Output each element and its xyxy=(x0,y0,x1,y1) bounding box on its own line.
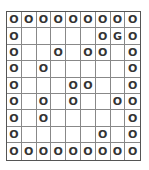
wall-cell: O xyxy=(125,61,140,77)
wall-cell: O xyxy=(125,127,140,143)
wall-cell: O xyxy=(125,110,140,126)
empty-cell xyxy=(37,127,52,143)
wall-cell: O xyxy=(96,143,111,159)
empty-cell xyxy=(66,45,81,61)
empty-cell xyxy=(51,61,66,77)
wall-cell: O xyxy=(81,12,96,28)
empty-cell xyxy=(37,78,52,94)
wall-cell: O xyxy=(7,12,22,28)
wall-cell: O xyxy=(96,45,111,61)
wall-cell: O xyxy=(7,143,22,159)
wall-cell: O xyxy=(37,143,52,159)
wall-cell: O xyxy=(7,45,22,61)
wall-cell: O xyxy=(96,12,111,28)
wall-cell: O xyxy=(51,45,66,61)
wall-cell: O xyxy=(22,12,37,28)
empty-cell xyxy=(37,28,52,44)
empty-cell xyxy=(96,110,111,126)
empty-cell xyxy=(81,127,96,143)
wall-cell: O xyxy=(125,78,140,94)
wall-cell: O xyxy=(66,143,81,159)
empty-cell xyxy=(22,110,37,126)
empty-cell xyxy=(51,28,66,44)
empty-cell xyxy=(22,28,37,44)
wall-cell: O xyxy=(66,94,81,110)
wall-cell: O xyxy=(37,110,52,126)
wall-cell: O xyxy=(37,61,52,77)
wall-cell: O xyxy=(66,78,81,94)
wall-cell: O xyxy=(7,28,22,44)
wall-cell: O xyxy=(37,94,52,110)
empty-cell xyxy=(51,94,66,110)
wall-cell: O xyxy=(81,78,96,94)
empty-cell xyxy=(51,110,66,126)
wall-cell: O xyxy=(111,143,126,159)
wall-cell: O xyxy=(125,143,140,159)
wall-cell: O xyxy=(111,12,126,28)
empty-cell xyxy=(81,28,96,44)
empty-cell xyxy=(111,45,126,61)
empty-cell xyxy=(111,110,126,126)
wall-cell: O xyxy=(22,143,37,159)
empty-cell xyxy=(96,61,111,77)
empty-cell xyxy=(22,45,37,61)
empty-cell xyxy=(111,127,126,143)
wall-cell: O xyxy=(66,12,81,28)
empty-cell xyxy=(66,61,81,77)
empty-cell xyxy=(81,94,96,110)
wall-cell: O xyxy=(125,94,140,110)
wall-cell: O xyxy=(51,12,66,28)
wall-cell: O xyxy=(125,28,140,44)
wall-cell: O xyxy=(111,94,126,110)
empty-cell xyxy=(37,45,52,61)
empty-cell xyxy=(22,94,37,110)
wall-cell: O xyxy=(7,110,22,126)
empty-cell xyxy=(96,94,111,110)
empty-cell xyxy=(66,28,81,44)
wall-cell: O xyxy=(81,45,96,61)
wall-cell: O xyxy=(7,78,22,94)
wall-cell: O xyxy=(7,94,22,110)
empty-cell xyxy=(111,78,126,94)
wall-cell: O xyxy=(37,12,52,28)
empty-cell xyxy=(22,78,37,94)
empty-cell xyxy=(51,127,66,143)
goal-cell: G xyxy=(111,28,126,44)
empty-cell xyxy=(96,78,111,94)
wall-cell: O xyxy=(7,61,22,77)
wall-cell: O xyxy=(81,143,96,159)
wall-cell: O xyxy=(51,143,66,159)
wall-cell: O xyxy=(96,28,111,44)
empty-cell xyxy=(66,110,81,126)
wall-cell: O xyxy=(7,127,22,143)
empty-cell xyxy=(22,61,37,77)
empty-cell xyxy=(66,127,81,143)
empty-cell xyxy=(51,78,66,94)
empty-cell xyxy=(81,110,96,126)
wall-cell: O xyxy=(96,127,111,143)
empty-cell xyxy=(111,61,126,77)
wall-cell: O xyxy=(125,45,140,61)
empty-cell xyxy=(22,127,37,143)
empty-cell xyxy=(81,61,96,77)
game-board: OOOOOOOOOOOGOOOOOOOOOOOOOOOOOOOOOOOOOOOO… xyxy=(6,11,141,161)
wall-cell: O xyxy=(125,12,140,28)
